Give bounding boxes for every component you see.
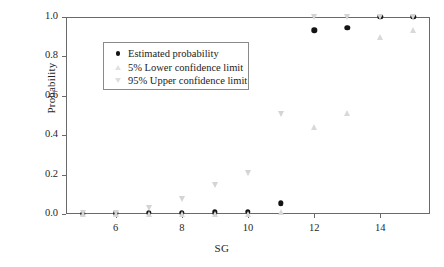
data-point (146, 205, 152, 211)
y-tick-label: 0.6 (18, 89, 58, 100)
triangle-up-icon (111, 65, 125, 70)
legend-item-label: 95% Upper confidence limit (125, 75, 247, 86)
x-tick-mark (380, 214, 381, 218)
y-tick-label: 0.4 (18, 128, 58, 139)
data-point (377, 34, 383, 40)
data-point (245, 170, 251, 176)
data-point (278, 209, 284, 215)
x-axis-title: SG (0, 242, 444, 254)
x-tick-label: 8 (162, 222, 202, 233)
legend-item-label: 5% Lower confidence limit (125, 62, 243, 73)
x-tick-label: 10 (228, 222, 268, 233)
filled-circle-icon (111, 51, 125, 56)
y-tick-mark (62, 17, 66, 18)
legend-item-label: Estimated probability (125, 48, 219, 59)
x-tick-label: 6 (96, 222, 136, 233)
y-tick-mark (62, 135, 66, 136)
data-point (344, 14, 350, 20)
legend-item-lower-confidence-limit: 5% Lower confidence limit (111, 61, 242, 75)
data-point (377, 14, 383, 20)
legend-item-upper-confidence-limit: 95% Upper confidence limit (111, 74, 242, 88)
data-point (311, 14, 317, 20)
data-point (212, 182, 218, 188)
data-point (113, 210, 119, 216)
y-tick-mark (62, 214, 66, 215)
data-point (80, 210, 86, 216)
y-tick-mark (62, 56, 66, 57)
legend: Estimated probability 5% Lower confidenc… (103, 42, 249, 90)
data-point (344, 110, 350, 116)
data-point (278, 111, 284, 117)
y-tick-label: 0.2 (18, 168, 58, 179)
x-tick-mark (314, 214, 315, 218)
data-point (179, 211, 185, 217)
data-point (212, 211, 218, 217)
x-tick-label: 14 (360, 222, 400, 233)
y-tick-label: 0.8 (18, 49, 58, 60)
data-point (146, 211, 152, 217)
x-tick-label: 12 (294, 222, 334, 233)
y-tick-label: 1.0 (18, 10, 58, 21)
legend-item-estimated-probability: Estimated probability (111, 47, 242, 61)
data-point (245, 211, 251, 217)
y-tick-label: 0.0 (18, 207, 58, 218)
data-point (410, 14, 416, 20)
triangle-down-icon (111, 78, 125, 83)
y-tick-mark (62, 175, 66, 176)
figure: Probability SG 0.00.20.40.60.81.0 681012… (0, 0, 444, 267)
data-point (311, 124, 317, 130)
y-tick-mark (62, 96, 66, 97)
data-point (179, 196, 185, 202)
data-point (410, 27, 416, 33)
